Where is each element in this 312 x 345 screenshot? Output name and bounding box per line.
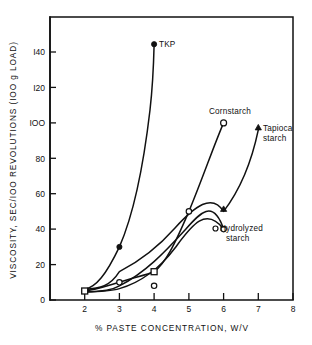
series-label-tapioca-starch-line2: starch (263, 134, 287, 143)
x-tick-label: 8 (291, 304, 296, 314)
y-tick-label: 60 (36, 189, 46, 199)
y-tick-label: 20 (36, 260, 46, 270)
y-tick-label: I40 (33, 47, 45, 57)
series-markers-tapioca-starch (221, 124, 262, 211)
y-tick-label: 40 (36, 224, 46, 234)
y-tick-label: 0 (40, 295, 45, 305)
y-axis-ticks (50, 52, 56, 300)
x-axis-title: % PASTE CONCENTRATION, W/V (95, 323, 249, 333)
series-line-hydrolyzed-starch (85, 219, 224, 292)
series-markers-tkp (117, 42, 157, 250)
x-tick-label: 4 (152, 304, 157, 314)
plot-frame (50, 17, 293, 300)
x-tick-label: 3 (117, 304, 122, 314)
chart-figure: 0 20 40 60 80 IOO I20 I40 2 3 4 5 6 7 8 (0, 0, 312, 345)
series-line-tapioca-starch (85, 130, 259, 290)
series-markers-hydrolyzed-starch (82, 226, 227, 294)
series-label-cornstarch: Cornstarch (209, 107, 251, 116)
y-tick-label: I20 (33, 83, 45, 93)
series-label-hydrolyzed-starch-line2: starch (226, 234, 250, 243)
series-label-hydrolyzed-starch-line1: Hydrolyzed (220, 224, 263, 233)
y-axis-tick-labels: 0 20 40 60 80 IOO I20 I40 (29, 47, 45, 305)
series-label-tkp: TKP (159, 40, 176, 49)
y-tick-label: IOO (29, 118, 45, 128)
x-tick-label: 6 (221, 304, 226, 314)
y-tick-label: 80 (36, 154, 46, 164)
series-line-hydrolyzed-starch-smooth (85, 211, 224, 292)
series-label-tapioca-starch-line1: Tapioca (263, 124, 293, 133)
viscosity-line-chart: 0 20 40 60 80 IOO I20 I40 2 3 4 5 6 7 8 (0, 0, 312, 345)
x-axis-ticks (85, 293, 293, 300)
x-tick-label: 7 (256, 304, 261, 314)
y-axis-title: VISCOSITY, SEC/IOO REVOLUTIONS (IOO g LO… (8, 41, 18, 279)
x-tick-label: 2 (82, 304, 87, 314)
x-axis-tick-labels: 2 3 4 5 6 7 8 (82, 304, 295, 314)
series-line-tkp (85, 45, 154, 289)
x-tick-label: 5 (187, 304, 192, 314)
series-line-cornstarch (85, 123, 224, 291)
hydrolyzed-label-marker (213, 226, 218, 231)
